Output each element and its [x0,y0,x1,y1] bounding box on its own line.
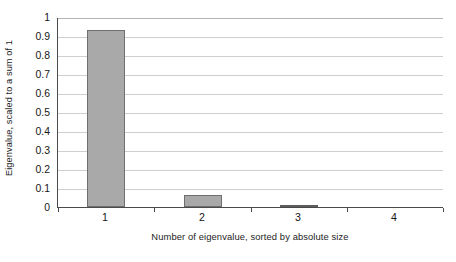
x-tick-label: 2 [199,212,205,223]
x-axis-tick-labels: 1 2 3 4 [57,212,443,228]
y-tick-label: 0.9 [36,32,50,42]
y-tick-label: 0.4 [36,127,50,137]
y-axis-title-text: Eigenvalue, scaled to a sum of 1 [4,40,14,176]
x-tick-label: 1 [102,212,108,223]
y-tick-label: 0.5 [36,108,50,118]
y-tick-label: 0.1 [36,184,50,194]
bar-2 [184,195,222,207]
y-tick-label: 0.3 [36,146,50,156]
x-tickmark [443,208,444,212]
eigenvalue-bar-chart: Eigenvalue, scaled to a sum of 1 1 0.9 0… [0,0,456,262]
y-axis-tick-labels: 1 0.9 0.8 0.7 0.6 0.5 0.4 0.3 0.2 0.1 0 [18,18,54,208]
x-axis-title: Number of eigenvalue, sorted by absolute… [57,231,443,242]
y-tick-label: 1 [44,13,50,23]
plot-area [57,18,443,208]
y-tick-label: 0.7 [36,70,50,80]
y-tick-label: 0 [44,203,50,213]
x-tick-label: 4 [391,212,397,223]
bars-layer [58,18,443,207]
y-tick-label: 0.6 [36,89,50,99]
y-axis-title: Eigenvalue, scaled to a sum of 1 [0,0,18,215]
bar-3 [280,205,318,207]
y-tick-label: 0.8 [36,51,50,61]
y-tick-label: 0.2 [36,165,50,175]
bar-1 [87,30,125,207]
x-tick-label: 3 [295,212,301,223]
